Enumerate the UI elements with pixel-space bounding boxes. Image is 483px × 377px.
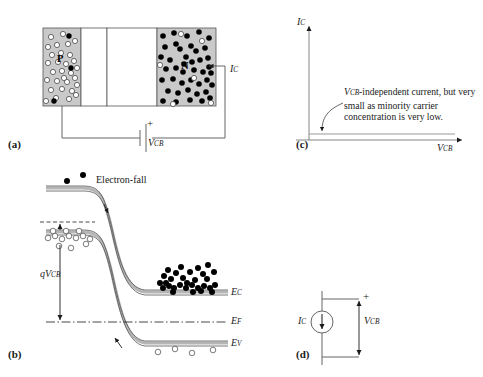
band-ec-label: EC xyxy=(231,286,242,297)
panel-a-ic-label: IC xyxy=(230,63,238,74)
ef-subscript: F xyxy=(237,318,241,326)
vcb-axis-subscript: CB xyxy=(443,145,452,153)
annotation-line-3: concentration is very low. xyxy=(344,111,443,122)
ic-subscript: C xyxy=(233,66,238,74)
annotation-leader-line xyxy=(322,103,343,131)
panel-d-equivalent-circuit xyxy=(311,291,359,365)
panel-a-label: (a) xyxy=(8,138,21,150)
band-ev-label: EV xyxy=(231,337,242,348)
panel-c-vcb-axis-label: VCB xyxy=(437,142,452,153)
battery-plus-sign: + xyxy=(147,117,153,129)
ic-source-subscript: C xyxy=(301,318,306,326)
ev-subscript: V xyxy=(237,340,241,348)
panel-c-ic-axis-label: IC xyxy=(297,16,305,27)
qvcb-subscript: CB xyxy=(51,271,60,279)
electron-fall-label: Electron-fall xyxy=(96,174,147,185)
hole-rise-arrow xyxy=(115,338,122,348)
vcb-source-subscript: CB xyxy=(370,318,379,326)
ic-axis-subscript: C xyxy=(300,19,305,27)
depletion-region-right xyxy=(107,28,157,106)
vcb-subscript: CB xyxy=(154,140,163,148)
ec-subscript: C xyxy=(237,289,242,297)
annotation-line-1: -independent current, but xyxy=(359,86,456,97)
panel-d-vcb-label: VCB xyxy=(364,315,379,326)
depletion-region-left xyxy=(81,28,107,106)
panel-c-iv-plot xyxy=(296,26,462,140)
conduction-band-curves xyxy=(46,186,228,295)
battery-symbol-a xyxy=(140,124,146,152)
panel-a-device: P xyxy=(43,28,225,152)
n-region-letter: N xyxy=(181,60,189,71)
annotation-vcb-subscript: CB xyxy=(350,89,359,97)
panel-d-ic-label: IC xyxy=(298,315,306,326)
panel-b-band-diagram xyxy=(40,172,228,356)
barrier-height-label: qVCB xyxy=(40,268,60,279)
band-ef-label: EF xyxy=(231,315,242,326)
panel-d-label: (d) xyxy=(296,348,309,360)
right-band-holes xyxy=(155,346,216,356)
panel-c-annotation: VCB-independent current, but very small … xyxy=(344,86,476,123)
panel-a-vcb-label: VCB xyxy=(148,137,163,148)
left-band-electrons xyxy=(64,172,86,184)
panel-d-plus-sign: + xyxy=(363,290,369,302)
qvcb-symbol: qV xyxy=(40,268,51,279)
panel-b-label: (b) xyxy=(8,348,21,360)
p-region-letter: P xyxy=(57,53,64,64)
panel-c-label: (c) xyxy=(296,138,308,150)
